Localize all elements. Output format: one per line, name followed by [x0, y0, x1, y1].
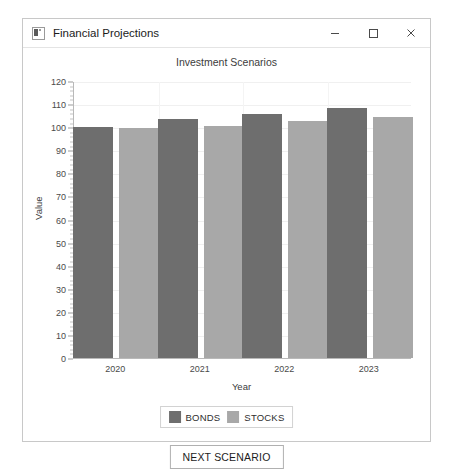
y-axis-tick	[68, 335, 73, 336]
y-axis-minor-tick	[70, 123, 73, 124]
y-axis-tick	[68, 82, 73, 83]
y-axis-minor-tick	[70, 114, 73, 115]
y-axis-minor-tick	[70, 109, 73, 110]
y-axis-minor-tick	[70, 137, 73, 138]
y-axis-tick-label: 40	[56, 262, 66, 272]
y-axis-minor-tick	[70, 202, 73, 203]
y-axis-minor-tick	[70, 298, 73, 299]
y-axis-minor-tick	[70, 345, 73, 346]
y-axis-minor-tick	[70, 225, 73, 226]
y-axis-minor-tick	[70, 211, 73, 212]
y-axis-tick-label: 60	[56, 216, 66, 226]
y-axis-label: Value	[33, 196, 44, 220]
close-icon[interactable]	[392, 19, 430, 47]
y-axis-minor-tick	[70, 118, 73, 119]
y-axis-tick	[68, 312, 73, 313]
minimize-icon[interactable]	[316, 19, 354, 47]
y-axis-tick-label: 90	[56, 146, 66, 156]
bar-stocks-2022	[288, 121, 328, 358]
plot-region	[73, 82, 411, 359]
legend-item-stocks: STOCKS	[227, 411, 284, 423]
y-axis-minor-tick	[70, 354, 73, 355]
y-axis-minor-tick	[70, 275, 73, 276]
x-axis-tick-label: 2020	[105, 364, 125, 374]
y-axis-minor-tick	[70, 86, 73, 87]
y-axis-minor-tick	[70, 91, 73, 92]
y-axis-minor-tick	[70, 215, 73, 216]
y-axis-minor-tick	[70, 165, 73, 166]
y-axis-tick-label: 100	[51, 123, 66, 133]
maximize-icon[interactable]	[354, 19, 392, 47]
chart-legend: BONDS STOCKS	[160, 406, 294, 428]
y-axis-minor-tick	[70, 322, 73, 323]
y-axis-tick-label: 120	[51, 77, 66, 87]
app-window-icon	[32, 27, 45, 40]
y-axis-tick	[68, 243, 73, 244]
y-axis-minor-tick	[70, 100, 73, 101]
x-axis-tick-label: 2021	[190, 364, 210, 374]
y-axis-tick-label: 30	[56, 285, 66, 295]
y-axis-tick	[68, 289, 73, 290]
y-axis-minor-tick	[70, 229, 73, 230]
y-axis-minor-tick	[70, 169, 73, 170]
window-title: Financial Projections	[53, 27, 159, 39]
y-axis-tick-label: 70	[56, 192, 66, 202]
y-axis-minor-tick	[70, 95, 73, 96]
y-axis-minor-tick	[70, 252, 73, 253]
y-axis-tick	[68, 359, 73, 360]
bar-bonds-2020	[73, 127, 113, 358]
y-axis-tick	[68, 174, 73, 175]
y-axis-minor-tick	[70, 331, 73, 332]
y-axis-minor-tick	[70, 280, 73, 281]
y-axis-minor-tick	[70, 155, 73, 156]
y-axis-minor-tick	[70, 206, 73, 207]
y-axis-minor-tick	[70, 262, 73, 263]
bar-bonds-2022	[242, 114, 282, 358]
title-bar: Financial Projections	[23, 19, 430, 48]
y-axis-tick-label: 10	[56, 331, 66, 341]
y-axis-minor-tick	[70, 188, 73, 189]
y-axis-minor-tick	[70, 317, 73, 318]
y-axis-minor-tick	[70, 248, 73, 249]
y-axis-tick-label: 50	[56, 239, 66, 249]
y-axis-minor-tick	[70, 285, 73, 286]
next-scenario-button[interactable]: NEXT SCENARIO	[169, 445, 283, 469]
y-axis-tick	[68, 266, 73, 267]
legend-swatch-bonds	[169, 411, 181, 423]
legend-label-bonds: BONDS	[186, 412, 221, 423]
y-axis-minor-tick	[70, 178, 73, 179]
chart-area: Investment Scenarios Value Year BONDS ST…	[23, 48, 430, 442]
window-controls	[316, 19, 430, 47]
y-axis-minor-tick	[70, 257, 73, 258]
y-axis-minor-tick	[70, 308, 73, 309]
y-axis-minor-tick	[70, 294, 73, 295]
x-axis-label: Year	[73, 381, 410, 392]
y-axis-tick	[68, 197, 73, 198]
y-axis-tick	[68, 220, 73, 221]
y-axis-minor-tick	[70, 340, 73, 341]
y-axis-minor-tick	[70, 160, 73, 161]
bar-stocks-2020	[119, 128, 159, 358]
bar-bonds-2021	[158, 119, 198, 358]
y-axis-tick-label: 80	[56, 169, 66, 179]
y-axis-minor-tick	[70, 303, 73, 304]
x-axis-tick-label: 2022	[274, 364, 294, 374]
legend-swatch-stocks	[227, 411, 239, 423]
y-axis-tick-label: 0	[61, 354, 66, 364]
y-axis-minor-tick	[70, 326, 73, 327]
y-axis-minor-tick	[70, 238, 73, 239]
y-axis-tick-label: 20	[56, 308, 66, 318]
chart-title: Investment Scenarios	[23, 56, 430, 68]
bar-bonds-2023	[327, 108, 367, 358]
y-axis-minor-tick	[70, 271, 73, 272]
legend-item-bonds: BONDS	[169, 411, 221, 423]
y-axis-minor-tick	[70, 183, 73, 184]
y-axis-minor-tick	[70, 142, 73, 143]
y-axis-minor-tick	[70, 192, 73, 193]
bar-stocks-2023	[373, 117, 413, 358]
y-axis-minor-tick	[70, 234, 73, 235]
y-axis-tick	[68, 151, 73, 152]
financial-projections-window: Financial Projections Investment Scen	[22, 18, 431, 442]
y-axis-minor-tick	[70, 146, 73, 147]
y-axis-tick-label: 110	[52, 100, 66, 110]
